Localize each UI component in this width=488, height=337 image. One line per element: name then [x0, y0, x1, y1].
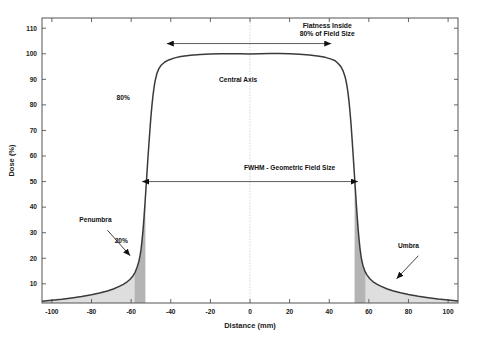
y-tick-label: 60	[30, 152, 38, 159]
y-tick-label: 10	[30, 280, 38, 287]
y-tick-label: 20	[30, 255, 38, 262]
annotation-label-central-axis: Central Axis	[219, 76, 258, 83]
annotation-label-fwhm: FWHM - Geometric Field Size	[244, 164, 336, 171]
annotation-label-penumbra: Penumbra	[79, 216, 112, 223]
x-tick-label: -80	[87, 308, 97, 315]
x-tick-label: 80	[405, 308, 413, 315]
annotation-label-flatness: Flatness Inside	[303, 22, 352, 29]
chart-canvas: -100-80-60-40-20020406080100102030405060…	[0, 0, 488, 337]
y-tick-label: 100	[26, 50, 37, 57]
annotation-label-eighty-percent: 80%	[117, 94, 130, 101]
x-tick-label: 40	[326, 308, 334, 315]
y-tick-label: 30	[30, 229, 38, 236]
x-tick-label: -60	[126, 308, 136, 315]
x-tick-label: -20	[206, 308, 216, 315]
shaded-region-umbra-right	[365, 272, 458, 303]
x-tick-label: 60	[365, 308, 373, 315]
x-axis-label: Distance (mm)	[224, 321, 276, 330]
y-axis-label: Dose (%)	[7, 144, 16, 177]
y-tick-label: 90	[30, 76, 38, 83]
umbra-leader-arrow	[397, 256, 419, 279]
y-tick-label: 80	[30, 101, 38, 108]
x-tick-label: 20	[286, 308, 294, 315]
annotation-label-flatness-2: 80% of Field Size	[300, 30, 355, 37]
annotation-label-umbra: Umbra	[398, 242, 419, 249]
y-tick-label: 70	[30, 127, 38, 134]
x-tick-label: 100	[443, 308, 454, 315]
y-tick-label: 40	[30, 203, 38, 210]
y-tick-label: 50	[30, 178, 38, 185]
profile-curve	[42, 54, 458, 302]
y-tick-label: 110	[26, 25, 37, 32]
x-tick-label: -100	[45, 308, 59, 315]
shaded-region-umbra-left	[42, 273, 135, 303]
beam-profile-figure: -100-80-60-40-20020406080100102030405060…	[0, 0, 488, 337]
x-tick-label: 0	[248, 308, 252, 315]
x-tick-label: -40	[166, 308, 176, 315]
